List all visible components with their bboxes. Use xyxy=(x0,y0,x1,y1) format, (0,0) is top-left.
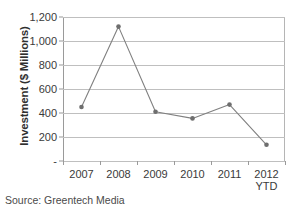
x-tick-mark xyxy=(100,161,101,165)
y-tick-label: 1,000 xyxy=(29,35,57,47)
y-tick-label: 200 xyxy=(39,131,57,143)
data-point-marker xyxy=(116,24,121,29)
x-tick-mark xyxy=(174,161,175,165)
x-tick-label: 2007 xyxy=(69,168,93,180)
x-tick-mark xyxy=(211,161,212,165)
series-marker-group xyxy=(79,24,269,147)
data-point-marker xyxy=(227,102,232,107)
y-tick-label: 800 xyxy=(39,59,57,71)
x-tick-mark xyxy=(285,161,286,165)
x-tick-label: 2011 xyxy=(218,168,242,180)
data-point-marker xyxy=(153,110,158,115)
y-axis-title: Investment ($ Millions) xyxy=(18,6,30,166)
plot-area: -2004006008001,0001,200 xyxy=(63,17,285,161)
x-tick-label: 2012YTD xyxy=(254,168,278,192)
chart-figure: Investment ($ Millions) -2004006008001,0… xyxy=(0,0,303,217)
x-tick-mark xyxy=(248,161,249,165)
y-tick-label: 400 xyxy=(39,107,57,119)
x-tick-mark xyxy=(63,161,64,165)
x-tick-label: 2010 xyxy=(180,168,204,180)
y-tick-label: 1,200 xyxy=(29,11,57,23)
data-point-marker xyxy=(264,143,269,148)
data-point-marker xyxy=(79,105,84,110)
series-line xyxy=(82,27,267,145)
x-tick-label: 2009 xyxy=(143,168,167,180)
source-caption: Source: Greentech Media xyxy=(5,194,125,206)
x-tick-label: 2008 xyxy=(106,168,130,180)
data-point-marker xyxy=(190,116,195,121)
x-tick-mark xyxy=(137,161,138,165)
y-tick-label: - xyxy=(53,155,57,167)
x-tick-label-second-line: YTD xyxy=(254,180,278,192)
y-tick-label: 600 xyxy=(39,83,57,95)
data-series-layer xyxy=(63,17,285,161)
